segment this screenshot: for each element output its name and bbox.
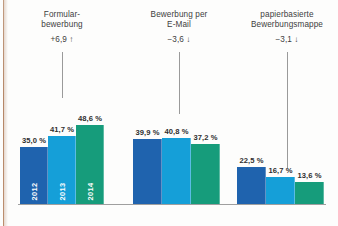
bar-item[interactable]: 41,7 % 2013 bbox=[48, 136, 76, 204]
bar-2012[interactable] bbox=[237, 167, 266, 204]
bar-item[interactable]: 13,6 % bbox=[295, 182, 324, 204]
bar-item[interactable]: 35,0 % 2012 bbox=[20, 147, 48, 204]
bar-year-label: 2014 bbox=[86, 182, 95, 200]
bar-value-label: 40,8 % bbox=[164, 127, 188, 136]
bar-item[interactable]: 40,8 % bbox=[162, 138, 191, 204]
bar-item[interactable]: 48,6 % 2014 bbox=[76, 125, 104, 204]
bar-item[interactable]: 37,2 % bbox=[191, 144, 220, 204]
bar-item[interactable]: 39,9 % bbox=[133, 139, 162, 204]
bar-group-papierbasierte-bewerbungsmappe: 22,5 % 16,7 % 13,6 % bbox=[237, 167, 324, 204]
bar-group-bewerbung-per-email: 39,9 % 40,8 % 37,2 % bbox=[133, 138, 220, 204]
bar-2014[interactable] bbox=[295, 182, 324, 204]
bar-2012[interactable]: 2012 bbox=[20, 147, 48, 204]
bar-2014[interactable]: 2014 bbox=[76, 125, 104, 204]
bar-value-label: 37,2 % bbox=[193, 133, 217, 142]
bar-value-label: 35,0 % bbox=[22, 136, 46, 145]
axis-baseline bbox=[18, 204, 326, 205]
bar-value-label: 13,6 % bbox=[297, 171, 321, 180]
bar-item[interactable]: 22,5 % bbox=[237, 167, 266, 204]
bar-value-label: 22,5 % bbox=[239, 156, 263, 165]
bar-2013[interactable] bbox=[266, 177, 295, 204]
bar-chart: Formular- bewerbung +6,9 ↑ Bewerbung per… bbox=[0, 0, 338, 226]
plot-area: 35,0 % 2012 41,7 % 2013 48,6 % 2014 bbox=[0, 0, 338, 226]
bar-item[interactable]: 16,7 % bbox=[266, 177, 295, 204]
bar-value-label: 41,7 % bbox=[50, 125, 74, 134]
bar-value-label: 39,9 % bbox=[135, 128, 159, 137]
bar-year-label: 2013 bbox=[58, 182, 67, 200]
bar-2012[interactable] bbox=[133, 139, 162, 204]
bar-year-label: 2012 bbox=[30, 182, 39, 200]
bar-2013[interactable]: 2013 bbox=[48, 136, 76, 204]
bar-2013[interactable] bbox=[162, 138, 191, 204]
bar-2014[interactable] bbox=[191, 144, 220, 204]
bar-value-label: 48,6 % bbox=[78, 114, 102, 123]
bar-group-formularbewerbung: 35,0 % 2012 41,7 % 2013 48,6 % 2014 bbox=[20, 125, 104, 204]
bar-value-label: 16,7 % bbox=[268, 166, 292, 175]
